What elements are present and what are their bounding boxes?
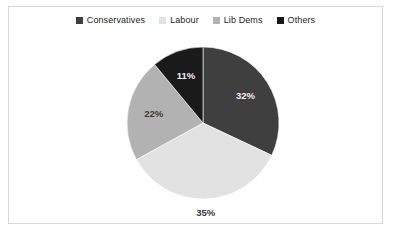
chart-frame: Conservatives Labour Lib Dems Others 32%… [8,6,383,224]
pie-plot-area: 32%35%22%11% [9,7,382,223]
pie-chart: 32%35%22%11% [9,7,384,225]
pie-slice-label: 35% [196,207,216,218]
pie-slice-label: 22% [144,108,164,119]
pie-slice-label: 32% [236,90,256,101]
pie-slice-label: 11% [177,70,196,81]
pie-slices [127,47,279,199]
